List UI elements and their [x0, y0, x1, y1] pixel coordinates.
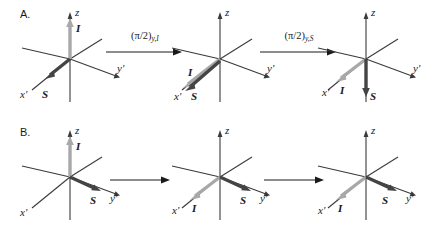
axis-z-arrowhead: [68, 12, 73, 19]
vector-I-arrowhead: [66, 18, 74, 27]
axis-z-arrowhead: [364, 130, 369, 137]
vector-S: [70, 177, 94, 188]
axis-minus-x-line: [366, 39, 398, 59]
axis-label-y: y': [412, 62, 421, 74]
vector-label-I: I: [75, 140, 81, 152]
axis-minus-x-line: [366, 157, 398, 177]
axis-label-z: z: [370, 6, 376, 18]
axis-label-z: z: [224, 124, 230, 136]
axis-label-x: x': [171, 204, 180, 216]
axis-minus-y-line: [172, 166, 220, 177]
axis-minus-x-line: [220, 39, 252, 59]
axis-label-x: x': [19, 88, 28, 100]
axis-label-x: x': [173, 90, 182, 102]
vector-label-S: S: [240, 194, 246, 206]
vector-label-I: I: [191, 202, 197, 214]
vector-label-I: I: [337, 202, 343, 214]
axis-label-z: z: [224, 6, 230, 18]
axis-z-arrowhead: [218, 12, 223, 19]
vector-S: [366, 177, 390, 188]
axis-label-z: z: [74, 124, 80, 136]
axis-x-line: [32, 177, 70, 208]
vector-I-arrowhead: [190, 191, 200, 200]
vector-I-arrowhead: [336, 73, 346, 82]
vector-S-arrowhead: [45, 70, 55, 79]
axis-minus-x-line: [220, 157, 252, 177]
axis-label-x: x': [317, 204, 326, 216]
axis-z-arrowhead: [218, 130, 223, 137]
transition-a-t1-base: (π/2): [131, 30, 151, 41]
axis-z-arrowhead: [68, 130, 73, 137]
axis-label-x: x': [321, 86, 330, 98]
vector-label-S: S: [191, 90, 197, 102]
vector-label-S: S: [90, 194, 96, 206]
axis-z-arrowhead: [364, 12, 369, 19]
vector-S-arrowhead: [362, 88, 370, 97]
axis-minus-x-line: [70, 39, 102, 59]
axis-label-z: z: [74, 6, 80, 18]
panel-b3: z y' x' I S: [308, 120, 421, 228]
vector-label-S: S: [42, 88, 48, 100]
axis-label-y: y': [405, 192, 414, 204]
vector-label-I: I: [339, 84, 345, 96]
row-a: A. z y': [0, 2, 421, 112]
vector-I-arrowhead: [336, 191, 346, 200]
axis-y-line: [366, 59, 412, 76]
vector-I-arrowhead: [66, 136, 74, 145]
nmr-vector-diagram-figure: A. z y': [0, 0, 421, 232]
row-b: B. z y' x' I S: [0, 120, 421, 230]
axis-minus-y-line: [22, 48, 70, 59]
axis-label-x: x': [19, 206, 28, 218]
axis-minus-y-line: [318, 166, 366, 177]
vector-label-S: S: [382, 194, 388, 206]
axis-minus-y-line: [172, 48, 220, 59]
axis-minus-y-line: [318, 48, 366, 59]
axis-minus-x-line: [70, 157, 102, 177]
panel-a3: z y' x' I S: [308, 2, 421, 110]
axis-label-z: z: [370, 124, 376, 136]
transition-a-t1-subscript: y,I: [152, 34, 159, 43]
vector-label-S: S: [370, 90, 376, 102]
axis-minus-y-line: [22, 166, 70, 177]
vector-S: [190, 61, 220, 87]
vector-I: [188, 59, 220, 84]
vector-S: [220, 177, 244, 188]
vector-label-I: I: [187, 66, 193, 78]
transition-a-t2-base: (π/2): [284, 30, 304, 41]
vector-label-I: I: [75, 22, 81, 34]
